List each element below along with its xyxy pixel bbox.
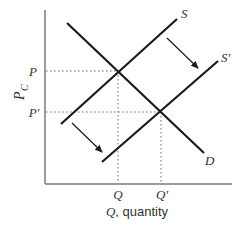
label-p: P <box>28 64 37 79</box>
label-s: S <box>181 6 188 21</box>
label-p-prime: P' <box>28 105 40 120</box>
supply-demand-diagram: S S' D P P' P C Q Q' Q, quantity <box>0 0 239 225</box>
label-s-prime: S' <box>221 50 231 65</box>
x-axis-title-rest: , quantity <box>115 204 168 219</box>
shift-arrow-upper <box>167 38 198 68</box>
shift-arrow-lower <box>72 123 102 152</box>
label-d: D <box>204 153 215 168</box>
y-axis-title-sub: C <box>19 84 30 91</box>
label-q-prime: Q' <box>156 187 168 202</box>
x-axis-title: Q, quantity <box>106 204 169 219</box>
y-axis-title: P C <box>12 84 30 101</box>
label-q: Q <box>113 187 123 202</box>
y-axis-title-main: P <box>12 91 27 101</box>
